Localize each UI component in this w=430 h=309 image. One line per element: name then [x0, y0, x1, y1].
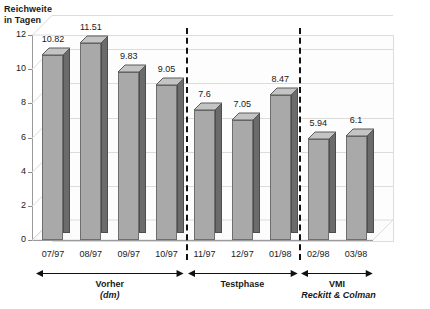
- y-tick-label: 12: [8, 30, 26, 39]
- bar-front-face: [194, 110, 215, 240]
- bar-value-label: 11.51: [71, 23, 111, 32]
- y-tick-mark: [28, 35, 32, 36]
- bar-column: [118, 65, 139, 240]
- phase-separator: [299, 28, 301, 260]
- bar-column: [346, 129, 367, 240]
- bar-side-face: [329, 132, 336, 233]
- bar-value-label: 9.83: [109, 52, 149, 61]
- y-tick-mark: [28, 240, 32, 241]
- y-tick-label: 2: [8, 201, 26, 210]
- bar-value-label: 9.05: [147, 65, 187, 74]
- bar-chart: Reichweitein Tagen 024681012 10.8211.519…: [0, 0, 430, 309]
- bar-front-face: [80, 43, 101, 240]
- y-tick-label: 6: [8, 133, 26, 142]
- phase-vmi-arrow: [301, 268, 373, 279]
- bar-side-face: [215, 103, 222, 233]
- bar-column: [232, 113, 253, 240]
- phase-separator: [186, 28, 188, 260]
- bar-front-face: [42, 55, 63, 240]
- bar-column: [42, 48, 63, 240]
- phase-testphase-caption: Testphase: [188, 279, 298, 290]
- y-tick-mark: [28, 103, 32, 104]
- bar-value-label: 7.05: [222, 100, 262, 109]
- phase-vorher-caption: Vorher(dm): [36, 279, 184, 301]
- phase-vmi-caption: VMIReckitt & Colman: [301, 279, 373, 301]
- bar-front-face: [270, 95, 291, 240]
- phase-vmi-sublabel: Reckitt & Colman: [301, 290, 373, 301]
- bar-front-face: [156, 85, 177, 240]
- bar-column: [308, 132, 329, 240]
- y-tick-label: 0: [8, 235, 26, 244]
- bar-side-face: [177, 78, 184, 233]
- bar-side-face: [253, 113, 260, 233]
- bar-side-face: [367, 129, 374, 233]
- y-tick-mark: [28, 172, 32, 173]
- y-tick-label: 10: [8, 64, 26, 73]
- bar-value-label: 8.47: [260, 75, 300, 84]
- phase-vorher-sublabel: (dm): [36, 290, 184, 301]
- gridline: [52, 15, 393, 16]
- bar-column: [156, 78, 177, 240]
- bar-value-label: 6.1: [336, 116, 376, 125]
- y-tick-mark: [28, 69, 32, 70]
- bar-front-face: [118, 72, 139, 240]
- bar-front-face: [308, 139, 329, 240]
- bar-side-face: [291, 88, 298, 233]
- bar-side-face: [63, 48, 70, 233]
- phase-vmi-label: VMI: [301, 279, 373, 290]
- phase-vorher-label: Vorher: [36, 279, 184, 290]
- phase-testphase-label: Testphase: [188, 279, 298, 290]
- bar-side-face: [139, 65, 146, 233]
- x-axis-label: 03/98: [334, 250, 378, 259]
- phase-vorher-arrow: [36, 268, 184, 279]
- bar-column: [194, 103, 215, 240]
- x-axis-line: [32, 240, 373, 241]
- bar-side-face: [101, 36, 108, 233]
- y-tick-label: 4: [8, 167, 26, 176]
- y-tick-label: 8: [8, 98, 26, 107]
- bar-column: [80, 36, 101, 240]
- bar-front-face: [232, 120, 253, 240]
- phase-testphase-arrow: [188, 268, 298, 279]
- bar-front-face: [346, 136, 367, 240]
- y-tick-mark: [28, 138, 32, 139]
- bar-value-label: 7.6: [185, 90, 225, 99]
- bar-column: [270, 88, 291, 240]
- bar-value-label: 5.94: [298, 119, 338, 128]
- bar-value-label: 10.82: [33, 35, 73, 44]
- y-tick-mark: [28, 206, 32, 207]
